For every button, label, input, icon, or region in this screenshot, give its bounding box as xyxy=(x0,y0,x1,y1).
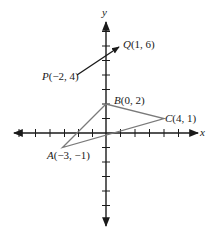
triangle-abc xyxy=(63,104,165,148)
point-label-p: P(−2, 4) xyxy=(42,71,79,82)
point-label-q: Q(1, 6) xyxy=(123,39,155,50)
vector-pq-arrow xyxy=(77,47,119,75)
coordinate-plane-diagram: y x Q(1, 6) P(−2, 4) B(0, 2) C(4, 1) A(−… xyxy=(0,0,215,239)
x-axis-label: x xyxy=(200,127,205,138)
point-label-a: A(−3, −1) xyxy=(47,150,90,161)
point-label-c: C(4, 1) xyxy=(165,113,196,124)
y-axis-label: y xyxy=(102,7,107,18)
point-label-b: B(0, 2) xyxy=(114,95,145,106)
